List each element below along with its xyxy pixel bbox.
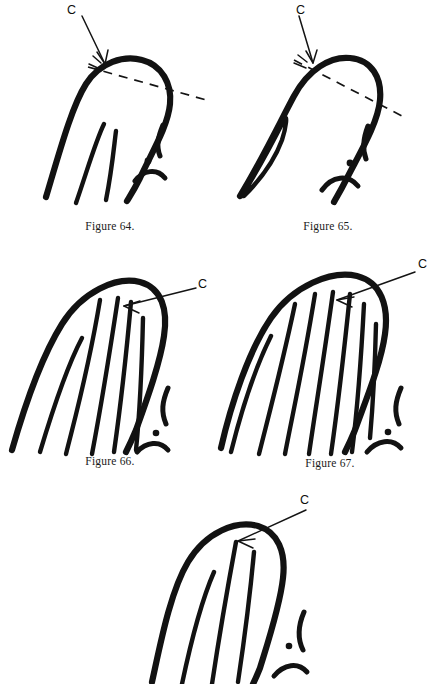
delta-dot: [385, 429, 392, 436]
figure-66-caption: Figure 66.: [30, 455, 190, 467]
delta-hook: [158, 125, 163, 156]
figure-68: [108, 486, 340, 684]
inner-ridge-4: [114, 302, 131, 452]
core-pointer-arrowhead: [238, 539, 255, 548]
delta-arc-lower: [274, 666, 307, 676]
illustration-plate: C Figure 64. C Figure 65.: [0, 0, 437, 684]
inner-ridge-5: [331, 294, 350, 454]
delta-arc-lower: [367, 442, 401, 452]
delta-hook: [163, 388, 168, 424]
delta-dot: [286, 643, 293, 650]
figure-66-core-label: C: [198, 278, 207, 291]
delta-hook: [299, 612, 304, 650]
delta-arc-lower: [137, 443, 168, 452]
figure-67-caption: Figure 67.: [250, 457, 410, 469]
figure-65-core-label: C: [296, 4, 305, 17]
outer-ridge-left: [76, 124, 104, 203]
shoulder-dashed-line: [294, 60, 404, 117]
delta-dot: [145, 158, 152, 165]
figure-67-core-label: C: [418, 258, 427, 271]
enclosure-sliver: [242, 118, 286, 196]
delta-hook: [396, 388, 401, 424]
delta-dot: [347, 160, 354, 167]
outer-ridge: [240, 58, 380, 202]
figure-64-core-label: C: [67, 4, 76, 17]
core-pointer-line: [299, 16, 313, 63]
figure-67: [215, 252, 437, 458]
figure-66: [0, 252, 220, 458]
figure-64-caption: Figure 64.: [30, 220, 190, 232]
figure-65-caption: Figure 65.: [248, 220, 408, 232]
inner-ridge-1: [182, 572, 214, 684]
inner-ridge-3: [238, 552, 254, 682]
core-hatch: [298, 55, 307, 62]
shoulder-dashed-line: [88, 67, 210, 101]
delta-dot: [153, 430, 160, 437]
figure-68-core-label: C: [300, 494, 309, 507]
inner-ridge-1: [106, 131, 116, 200]
figure-65: [218, 0, 437, 220]
inner-ridge-5: [136, 318, 143, 450]
figure-64: [0, 0, 220, 220]
inner-ridge-2: [212, 542, 236, 684]
